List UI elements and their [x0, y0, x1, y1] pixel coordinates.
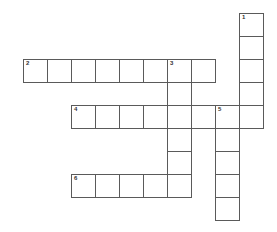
crossword-cell[interactable]: [167, 82, 192, 106]
crossword-cell[interactable]: [215, 151, 240, 175]
clue-number: 4: [74, 106, 77, 113]
crossword-cell[interactable]: [215, 174, 240, 198]
crossword-cell[interactable]: [119, 174, 144, 198]
crossword-cell[interactable]: 1: [239, 13, 264, 37]
crossword-cell[interactable]: [215, 197, 240, 221]
crossword-cell[interactable]: 2: [23, 59, 48, 83]
crossword-cell[interactable]: [95, 59, 120, 83]
crossword-cell[interactable]: [119, 59, 144, 83]
clue-number: 2: [26, 60, 29, 67]
crossword-cell[interactable]: [239, 59, 264, 83]
crossword-cell[interactable]: [167, 128, 192, 152]
crossword-cell[interactable]: [239, 82, 264, 106]
crossword-cell[interactable]: [191, 105, 216, 129]
crossword-grid: 123456: [0, 0, 277, 232]
clue-number: 6: [74, 175, 77, 182]
crossword-cell[interactable]: [95, 105, 120, 129]
clue-number: 5: [218, 106, 221, 113]
crossword-cell[interactable]: [143, 174, 168, 198]
crossword-cell[interactable]: [191, 59, 216, 83]
crossword-cell[interactable]: [167, 105, 192, 129]
crossword-cell[interactable]: 5: [215, 105, 240, 129]
crossword-cell[interactable]: 6: [71, 174, 96, 198]
clue-number: 3: [170, 60, 173, 67]
crossword-cell[interactable]: [239, 36, 264, 60]
crossword-cell[interactable]: 3: [167, 59, 192, 83]
clue-number: 1: [242, 14, 245, 21]
crossword-cell[interactable]: [215, 128, 240, 152]
crossword-cell[interactable]: [167, 151, 192, 175]
crossword-cell[interactable]: [143, 59, 168, 83]
crossword-cell[interactable]: [47, 59, 72, 83]
crossword-cell[interactable]: [167, 174, 192, 198]
crossword-cell[interactable]: 4: [71, 105, 96, 129]
crossword-cell[interactable]: [239, 105, 264, 129]
crossword-cell[interactable]: [119, 105, 144, 129]
crossword-cell[interactable]: [95, 174, 120, 198]
crossword-cell[interactable]: [71, 59, 96, 83]
crossword-cell[interactable]: [143, 105, 168, 129]
